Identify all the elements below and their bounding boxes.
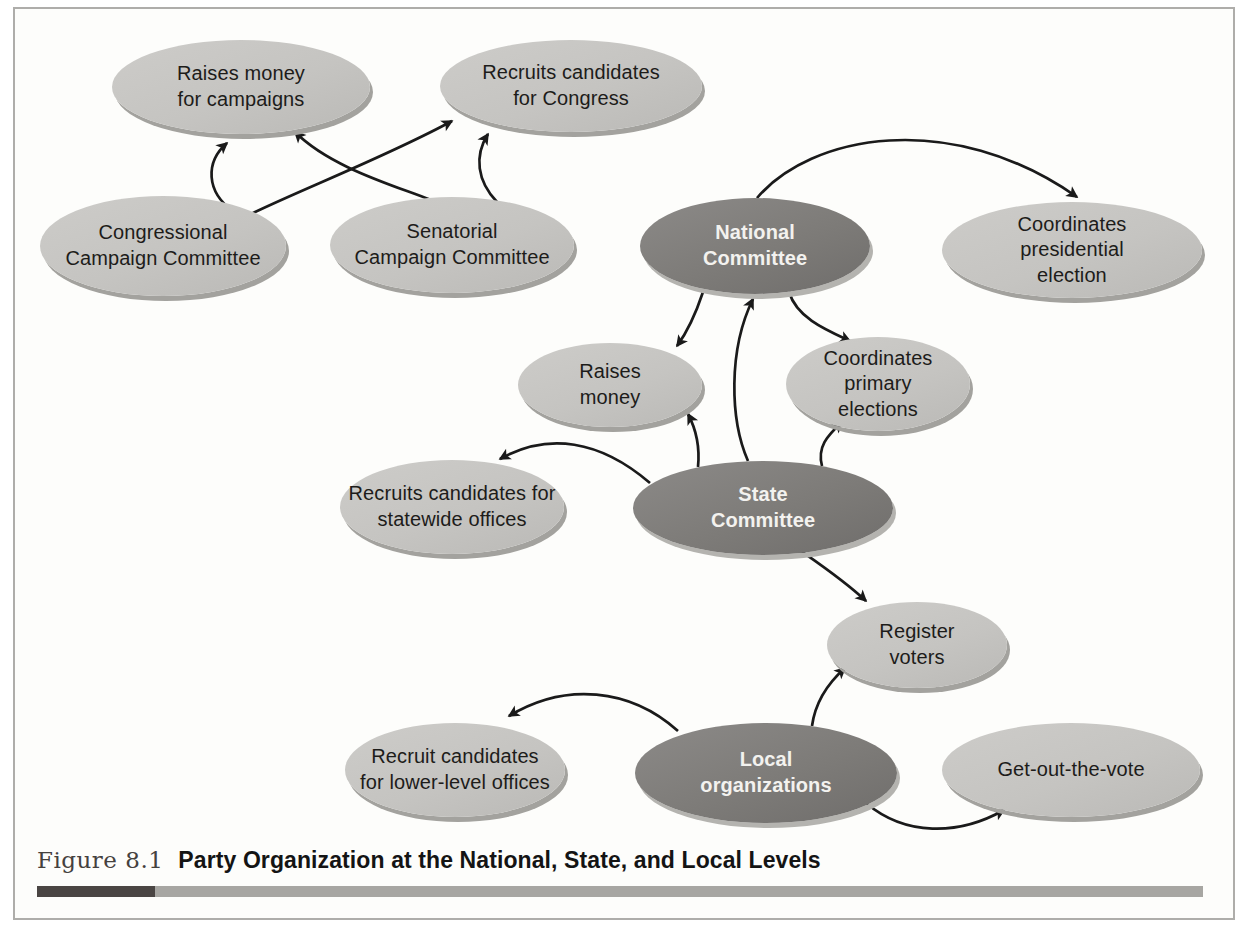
caption-bar-dark-segment — [37, 886, 155, 897]
node-register-voters: Register voters — [827, 602, 1007, 688]
node-senatorial-campaign-committee: Senatorial Campaign Committee — [330, 197, 574, 293]
node-coordinates-presidential-election: Coordinates presidential election — [942, 202, 1202, 298]
arrow-senatorial-to-recruits-congress — [479, 134, 497, 202]
node-local-organizations: Local organizations — [635, 723, 897, 823]
node-recruits-candidates-statewide: Recruits candidates for statewide office… — [340, 460, 564, 554]
node-national-committee: National Committee — [640, 198, 870, 294]
arrow-state-to-national — [734, 299, 753, 461]
caption-underline-bar — [37, 886, 1203, 897]
arrow-state-to-register-voters — [801, 551, 866, 601]
node-recruit-candidates-lower-level: Recruit candidates for lower-level offic… — [345, 723, 565, 817]
diagram-stage: Raises money for campaigns Recruits cand… — [0, 0, 1247, 929]
arrow-local-to-recruit-lower — [509, 694, 678, 731]
arrow-senatorial-to-raises-campaigns — [295, 132, 431, 200]
node-raises-money-for-campaigns: Raises money for campaigns — [112, 40, 370, 134]
arrow-national-to-coordinates-primary — [789, 292, 850, 341]
arrow-state-to-coordinates-primary — [821, 422, 842, 466]
figure-title: Party Organization at the National, Stat… — [178, 847, 820, 874]
arrow-state-to-raises-money — [688, 414, 699, 467]
node-state-committee: State Committee — [633, 461, 893, 555]
node-congressional-campaign-committee: Congressional Campaign Committee — [40, 196, 286, 296]
node-raises-money: Raises money — [518, 343, 702, 427]
caption-bar-light-segment — [155, 886, 1203, 897]
arrow-local-to-register-voters — [812, 668, 845, 726]
node-coordinates-primary-elections: Coordinates primary elections — [786, 337, 970, 431]
arrow-national-to-coordinates-presidential — [757, 140, 1077, 198]
arrow-national-to-raises-money — [677, 292, 703, 346]
node-recruits-candidates-for-congress: Recruits candidates for Congress — [440, 40, 702, 132]
arrow-local-to-get-out-the-vote — [866, 803, 1004, 829]
figure-caption: Figure 8.1 Party Organization at the Nat… — [37, 847, 821, 874]
figure-number: Figure 8.1 — [37, 847, 163, 873]
node-get-out-the-vote: Get-out-the-vote — [942, 723, 1200, 817]
